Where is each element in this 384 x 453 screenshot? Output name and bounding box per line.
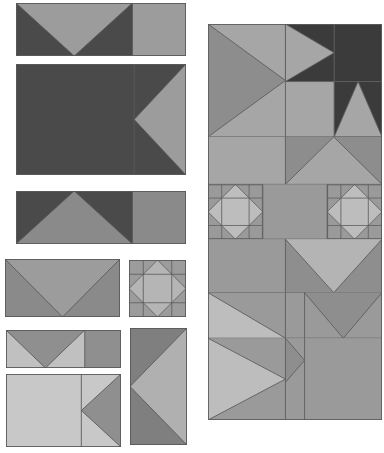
quilt-layout-canvas: [0, 0, 384, 453]
panel-star-right: [327, 184, 382, 239]
row5-mid-square: [285, 293, 304, 339]
row6-right-square: [305, 338, 382, 420]
block-half-square-triangle-point-left-light: [6, 374, 121, 447]
panel-star-band-center-square: [263, 184, 327, 239]
row4-plain-square: [208, 239, 285, 292]
side-square: [132, 3, 186, 56]
assembled-quilt-top: [208, 24, 382, 420]
star-center-square: [341, 198, 368, 225]
top-right-dark-square: [334, 24, 382, 82]
block-flying-geese-with-square-light: [6, 330, 121, 368]
block-flying-geese-with-square-dark: [16, 3, 186, 56]
block-flying-geese-down-medium: [5, 259, 120, 317]
row2-plain-light-square: [208, 137, 285, 185]
top-light-square: [285, 82, 334, 137]
block-half-square-triangle-point-left-tall: [130, 328, 187, 445]
block-sawtooth-star-small: [129, 260, 186, 317]
side-square: [85, 330, 121, 368]
star-center-square: [143, 274, 172, 303]
block-half-square-triangle-point-left-dark: [16, 64, 186, 175]
star-center-square: [222, 198, 249, 225]
side-square: [132, 191, 186, 244]
block-flying-geese-up-with-square-dark: [16, 191, 186, 244]
panel-star-left: [208, 184, 263, 239]
